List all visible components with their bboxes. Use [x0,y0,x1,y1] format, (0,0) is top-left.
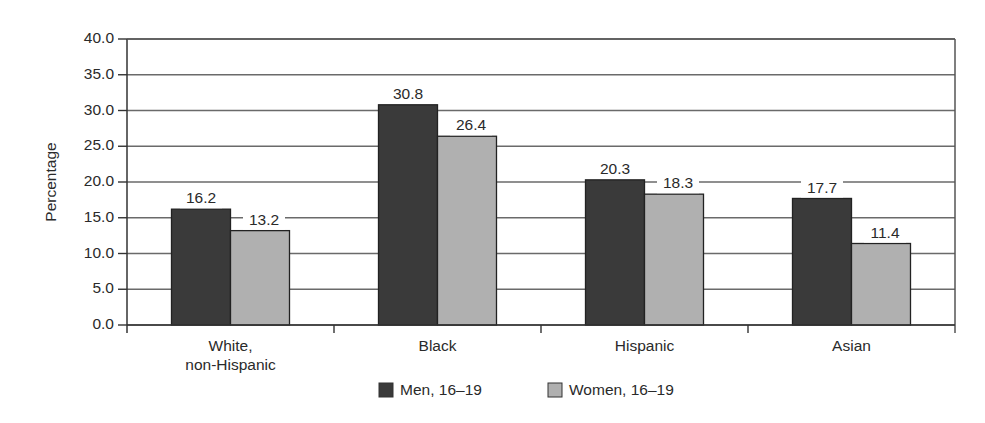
bar-men [172,209,231,325]
value-label: 26.4 [456,116,487,133]
bar-women [645,194,704,325]
legend-label: Women, 16–19 [569,381,674,398]
legend: Men, 16–19Women, 16–19 [379,381,674,398]
value-label: 30.8 [393,85,423,102]
y-tick-label: 25.0 [84,136,115,153]
bar-women [438,136,497,325]
y-tick-label: 20.0 [84,172,115,189]
category-label: Asian [832,337,871,354]
legend-swatch-women [548,383,562,397]
x-axis-categories: White,non-HispanicBlackHispanicAsian [185,337,871,373]
bar-group: 20.318.3 [586,160,704,325]
y-tick-label: 5.0 [92,279,114,296]
y-tick-label: 0.0 [92,315,114,332]
value-label: 20.3 [600,160,630,177]
y-tick-label: 35.0 [84,65,115,82]
legend-swatch-men [379,383,393,397]
value-label: 17.7 [807,179,837,196]
y-tick-label: 15.0 [84,208,115,225]
bar-women [231,231,290,325]
bar-men [586,180,645,325]
y-tick-label: 40.0 [84,29,115,46]
value-label: 11.4 [870,224,899,241]
legend-label: Men, 16–19 [400,381,482,398]
value-label: 13.2 [249,211,279,228]
category-label: White, [209,337,253,354]
legend-item-men: Men, 16–19 [379,381,482,398]
y-tick-label: 30.0 [84,101,115,118]
bar-group: 16.213.2 [172,189,290,325]
value-label: 18.3 [663,174,693,191]
bar-women [852,243,911,325]
y-axis-title: Percentage [42,142,59,221]
bar-group: 17.711.4 [793,179,911,325]
y-axis-ticks: 0.05.010.015.020.025.030.035.040.0 [84,29,127,332]
y-tick-label: 10.0 [84,244,115,261]
bar-men [379,105,438,325]
bar-chart: 16.213.230.826.420.318.317.711.4 0.05.01… [0,0,985,423]
category-label: Black [419,337,457,354]
category-label: non-Hispanic [185,356,276,373]
category-label: Hispanic [615,337,675,354]
value-label: 16.2 [186,189,216,206]
legend-item-women: Women, 16–19 [548,381,674,398]
bar-men [793,198,852,325]
bar-group: 30.826.4 [379,85,497,325]
